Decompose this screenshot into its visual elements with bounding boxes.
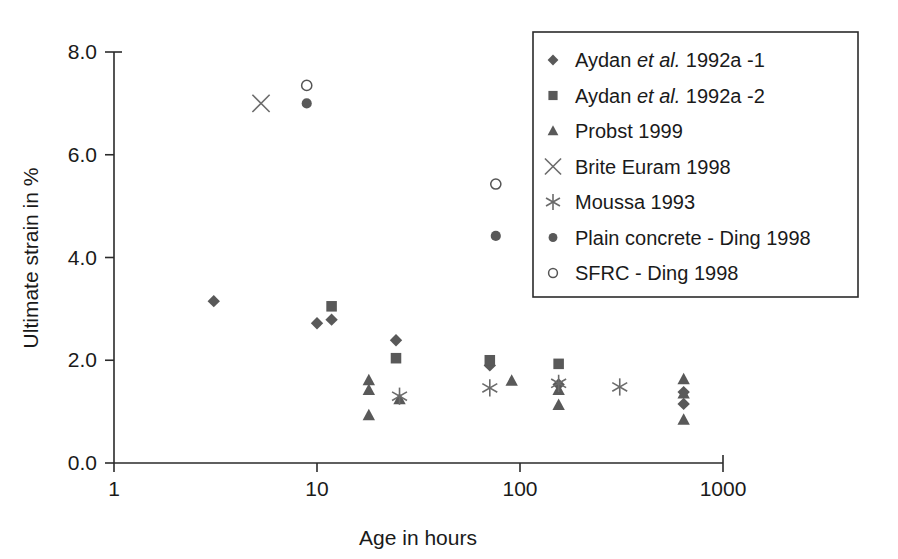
data-point-s5-p0 <box>302 98 312 108</box>
x-tick-label: 10 <box>305 477 328 500</box>
legend-label-6: SFRC - Ding 1998 <box>575 262 738 284</box>
data-point-s1-p2 <box>485 355 496 366</box>
x-tick-label: 1 <box>108 477 120 500</box>
x-tick-label: 1000 <box>700 477 747 500</box>
legend-item-6[interactable]: SFRC - Ding 1998 <box>549 262 739 284</box>
legend-marker-5 <box>549 233 558 242</box>
data-point-s1-p1 <box>391 353 402 364</box>
legend-label-0: Aydan et al. 1992a -1 <box>575 49 765 71</box>
data-point-s0-p0 <box>208 295 220 307</box>
series-2 <box>363 373 690 425</box>
data-point-s1-p0 <box>326 301 337 312</box>
y-axis-title: Ultimate strain in % <box>19 168 42 349</box>
scatter-chart-figure: 0.02.04.06.08.01101001000 Ultimate strai… <box>0 0 898 559</box>
y-tick-label: 2.0 <box>68 348 97 371</box>
data-point-s2-p1 <box>363 384 375 395</box>
legend-label-2: Probst 1999 <box>575 120 683 142</box>
data-point-s0-p1 <box>311 317 323 329</box>
y-tick-label: 4.0 <box>68 246 97 269</box>
data-point-s0-p3 <box>390 334 402 346</box>
legend-label-5: Plain concrete - Ding 1998 <box>575 227 811 249</box>
data-point-s2-p2 <box>363 409 375 420</box>
data-point-s2-p9 <box>677 413 689 424</box>
y-tick-label: 0.0 <box>68 451 97 474</box>
data-point-s5-p1 <box>491 231 501 241</box>
series-0 <box>208 295 690 410</box>
data-point-s2-p7 <box>677 373 689 384</box>
series-5 <box>302 98 501 241</box>
data-point-s2-p6 <box>552 398 564 409</box>
chart-svg: 0.02.04.06.08.01101001000 Ultimate strai… <box>0 0 898 559</box>
series-1 <box>326 301 564 369</box>
data-point-s2-p0 <box>363 374 375 385</box>
x-axis-title: Age in hours <box>359 526 477 549</box>
series-6 <box>302 80 501 189</box>
legend-label-3: Brite Euram 1998 <box>575 156 731 178</box>
series-3 <box>252 95 269 112</box>
legend-item-5[interactable]: Plain concrete - Ding 1998 <box>549 227 811 249</box>
y-tick-label: 8.0 <box>68 40 97 63</box>
data-point-s6-p1 <box>491 179 501 189</box>
x-tick-label: 100 <box>502 477 537 500</box>
data-point-s2-p4 <box>505 374 517 385</box>
chart-legend: Aydan et al. 1992a -1Aydan et al. 1992a … <box>533 32 858 297</box>
data-point-s3-p0 <box>252 95 269 112</box>
legend-label-1: Aydan et al. 1992a -2 <box>575 85 765 107</box>
data-point-s0-p2 <box>325 313 337 325</box>
data-point-s4-p1 <box>482 379 497 396</box>
data-point-s1-p3 <box>553 359 564 370</box>
legend-marker-6 <box>549 269 558 278</box>
data-point-s4-p0 <box>392 388 407 405</box>
y-tick-label: 6.0 <box>68 143 97 166</box>
legend-label-4: Moussa 1993 <box>575 191 695 213</box>
data-point-s6-p0 <box>302 80 312 90</box>
data-point-s0-p7 <box>677 398 689 410</box>
legend-item-0[interactable]: Aydan et al. 1992a -1 <box>548 49 765 71</box>
legend-item-1[interactable]: Aydan et al. 1992a -2 <box>548 85 764 107</box>
data-point-s4-p2 <box>551 375 566 392</box>
data-point-s4-p3 <box>612 378 627 395</box>
legend-marker-1 <box>548 91 557 100</box>
